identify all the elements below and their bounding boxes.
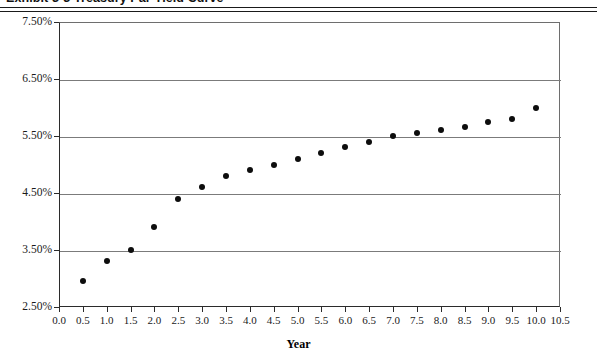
y-axis-tick-label: 7.50% <box>8 15 52 27</box>
x-axis-tick <box>131 307 132 312</box>
title-rule-thick <box>0 7 597 8</box>
x-axis-tick-label: 5.0 <box>291 314 305 326</box>
y-axis-tick-label: 6.50% <box>8 72 52 84</box>
x-axis-tick-label: 1.0 <box>100 314 114 326</box>
x-axis-tick <box>59 307 60 312</box>
x-axis-tick-label: 4.0 <box>243 314 257 326</box>
x-axis-tick-label: 3.0 <box>195 314 209 326</box>
x-axis-tick-label: 2.5 <box>171 314 185 326</box>
y-axis-tick-label: 2.50% <box>8 300 52 312</box>
title-rule-thin <box>0 11 597 12</box>
data-point <box>342 144 348 150</box>
data-point <box>462 124 468 130</box>
x-axis-tick-label: 7.5 <box>410 314 424 326</box>
x-axis-tick <box>274 307 275 312</box>
x-axis-tick <box>250 307 251 312</box>
x-axis-tick <box>512 307 513 312</box>
gridline-horizontal <box>60 194 561 195</box>
x-axis-tick-label: 10.0 <box>527 314 546 326</box>
data-point <box>175 196 181 202</box>
data-point <box>128 247 134 253</box>
gridline-horizontal <box>60 251 561 252</box>
x-axis-tick-label: 4.5 <box>267 314 281 326</box>
data-point <box>151 224 157 230</box>
data-point <box>318 150 324 156</box>
x-axis-tick-label: 7.0 <box>386 314 400 326</box>
x-axis-tick <box>465 307 466 312</box>
x-axis-title: Year <box>0 337 597 352</box>
x-axis-tick <box>202 307 203 312</box>
x-axis-tick <box>298 307 299 312</box>
y-axis-tick <box>54 250 59 251</box>
data-point <box>104 258 110 264</box>
x-axis-tick-label: 1.5 <box>124 314 138 326</box>
x-axis-tick-label: 0.5 <box>76 314 90 326</box>
data-point <box>271 162 277 168</box>
y-axis-tick-label: 4.50% <box>8 186 52 198</box>
x-axis-tick-label: 9.5 <box>505 314 519 326</box>
x-axis-tick-label: 5.5 <box>315 314 329 326</box>
x-axis-tick-label: 6.0 <box>338 314 352 326</box>
chart-figure: Exhibit 3-3 Treasury Par Yield Curve 2.5… <box>0 0 597 353</box>
data-point <box>414 130 420 136</box>
x-axis-tick-label: 6.5 <box>362 314 376 326</box>
x-axis-tick <box>369 307 370 312</box>
x-axis-tick-label: 8.0 <box>434 314 448 326</box>
data-point <box>533 105 539 111</box>
x-axis-tick <box>393 307 394 312</box>
y-axis-tick-label: 5.50% <box>8 129 52 141</box>
x-axis-tick <box>536 307 537 312</box>
y-axis-tick <box>54 136 59 137</box>
x-axis-tick <box>417 307 418 312</box>
x-axis-tick <box>321 307 322 312</box>
data-point <box>509 116 515 122</box>
x-axis-tick-label: 2.0 <box>148 314 162 326</box>
x-axis-tick <box>345 307 346 312</box>
plot-area <box>59 22 560 307</box>
x-axis-tick-label: 0.0 <box>52 314 66 326</box>
data-point <box>247 167 253 173</box>
data-point <box>199 184 205 190</box>
x-axis-tick <box>441 307 442 312</box>
gridline-horizontal <box>60 137 561 138</box>
data-point <box>390 133 396 139</box>
x-axis-tick-label: 9.0 <box>482 314 496 326</box>
y-axis-tick-label: 3.50% <box>8 243 52 255</box>
y-axis-tick <box>54 22 59 23</box>
x-axis-tick-label: 3.5 <box>219 314 233 326</box>
x-axis-tick <box>154 307 155 312</box>
x-axis-tick <box>178 307 179 312</box>
data-point <box>223 173 229 179</box>
data-point <box>485 119 491 125</box>
gridline-horizontal <box>60 80 561 81</box>
x-axis-tick <box>226 307 227 312</box>
x-axis-tick <box>488 307 489 312</box>
x-axis-tick <box>560 307 561 312</box>
chart-title: Exhibit 3-3 Treasury Par Yield Curve <box>6 0 224 5</box>
x-axis-tick <box>107 307 108 312</box>
data-point <box>438 127 444 133</box>
x-axis-tick <box>83 307 84 312</box>
data-point <box>80 278 86 284</box>
y-axis-tick <box>54 193 59 194</box>
data-point <box>366 139 372 145</box>
data-point <box>295 156 301 162</box>
x-axis-tick-label: 8.5 <box>458 314 472 326</box>
x-axis-tick-label: 10.5 <box>550 314 569 326</box>
y-axis-tick <box>54 79 59 80</box>
